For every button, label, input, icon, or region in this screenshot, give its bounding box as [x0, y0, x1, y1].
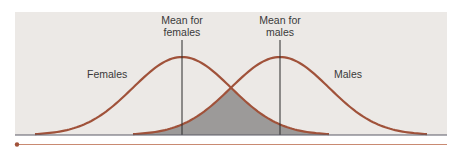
mean-females-label-line2: females — [164, 26, 201, 38]
males-label: Males — [334, 68, 362, 80]
females-label: Females — [87, 68, 127, 80]
mean-males-label-line1: Mean for — [259, 14, 301, 26]
rule-bullet-dot — [15, 142, 19, 146]
mean-females-label-line1: Mean for — [161, 14, 203, 26]
overlap-diagram: Mean for females Mean for males Females … — [0, 0, 457, 147]
mean-males-label-line2: males — [266, 26, 294, 38]
